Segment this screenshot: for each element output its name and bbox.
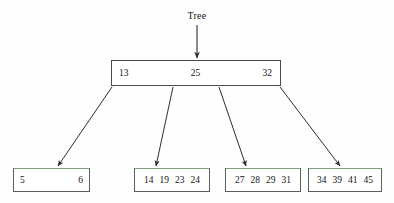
leaf-4-key-3: 41 [345, 175, 361, 185]
edge-root-to-leaf-2 [156, 87, 173, 166]
leaf-1-key-1: 5 [20, 175, 25, 185]
leaf-node-4-keys: 34 39 41 45 [309, 175, 381, 185]
root-node: 13 25 32 [111, 60, 281, 86]
leaf-2-key-2: 19 [157, 175, 173, 185]
leaf-3-key-4: 31 [279, 175, 295, 185]
edge-root-to-leaf-1 [58, 87, 112, 166]
leaf-3-key-2: 28 [248, 175, 264, 185]
leaf-node-1: 5 6 [13, 168, 90, 192]
leaf-4-key-1: 34 [314, 175, 330, 185]
leaf-node-4: 34 39 41 45 [308, 168, 382, 192]
leaf-3-key-3: 29 [263, 175, 279, 185]
leaf-2-key-3: 23 [172, 175, 188, 185]
root-key-1: 13 [112, 68, 170, 78]
leaf-node-2: 14 19 23 24 [134, 168, 210, 192]
leaf-2-key-4: 24 [188, 175, 204, 185]
leaf-4-key-4: 45 [361, 175, 377, 185]
edge-root-to-leaf-4 [280, 87, 340, 166]
leaf-2-key-1: 14 [141, 175, 157, 185]
leaf-node-2-keys: 14 19 23 24 [135, 175, 209, 185]
tree-diagram: Tree 13 25 32 5 6 14 19 23 24 27 28 29 3… [0, 0, 394, 203]
leaf-node-3: 27 28 29 31 [225, 168, 301, 192]
leaf-node-1-keys: 5 6 [14, 175, 89, 185]
root-key-2: 25 [170, 68, 221, 78]
leaf-1-key-2: 6 [78, 175, 83, 185]
leaf-node-3-keys: 27 28 29 31 [226, 175, 300, 185]
edge-root-to-leaf-3 [219, 87, 246, 166]
root-key-3: 32 [221, 68, 280, 78]
leaf-3-key-1: 27 [232, 175, 248, 185]
tree-label: Tree [0, 10, 394, 22]
root-node-keys: 13 25 32 [112, 61, 280, 85]
leaf-4-key-2: 39 [330, 175, 346, 185]
